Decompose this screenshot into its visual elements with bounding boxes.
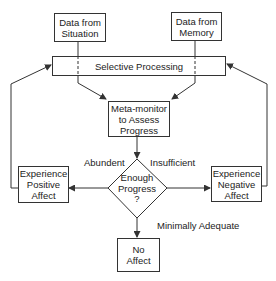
edge-label-abundant: Abundent [84, 157, 125, 168]
edge-label-insufficient: Insufficient [150, 157, 195, 168]
node-negative-affect: ExperienceNegativeAffect [211, 166, 262, 202]
node-data-from-situation: Data fromSituation [54, 13, 106, 42]
node-positive-affect: ExperiencePositiveAffect [18, 166, 69, 203]
node-data-from-memory: Data fromMemory [171, 12, 222, 41]
node-meta-monitor: Meta-monitorto AssessProgress [108, 101, 170, 137]
node-selective-processing: Selective Processing [52, 56, 226, 76]
decision-label: Enough Progress ? [112, 173, 162, 205]
edge-label-minimal: Minimally Adequate [157, 220, 239, 231]
node-no-affect: NoAffect [117, 238, 160, 272]
